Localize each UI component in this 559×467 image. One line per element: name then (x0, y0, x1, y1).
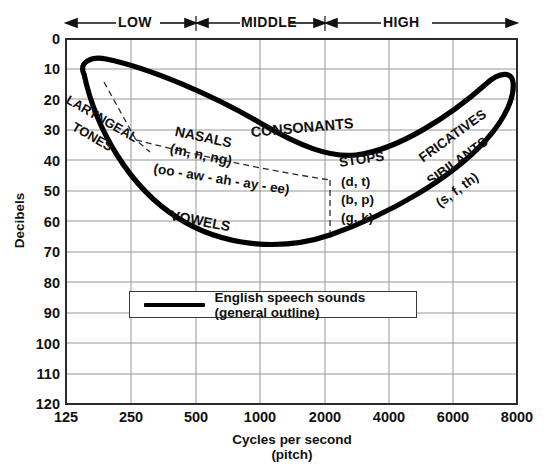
legend: English speech sounds (general outline) (129, 291, 417, 318)
ytick-90: 90 (20, 305, 60, 321)
region-stops-line4: (g, k) (341, 210, 373, 225)
x-axis-title: Cycles per second (pitch) (212, 432, 372, 462)
xtick-8000: 8000 (485, 409, 549, 425)
band-label-middle: MIDDLE (241, 14, 297, 30)
xtick-125: 125 (36, 409, 96, 425)
band-label-high: HIGH (383, 14, 420, 30)
legend-label: English speech sounds (general outline) (215, 290, 416, 320)
speech-banana-chart: LOW MIDDLE HIGH 0 10 20 30 40 50 60 70 8… (0, 0, 559, 467)
xtick-4000: 4000 (357, 409, 421, 425)
ytick-80: 80 (20, 275, 60, 291)
region-stops-line2: (d, t) (341, 174, 370, 189)
chart-canvas (0, 0, 559, 467)
xtick-6000: 6000 (421, 409, 485, 425)
xtick-2000: 2000 (293, 409, 357, 425)
speech-banana-outline (83, 58, 514, 244)
ytick-40: 40 (20, 153, 60, 169)
ytick-110: 110 (20, 366, 60, 382)
region-stops-line3: (b, p) (341, 192, 374, 207)
ytick-30: 30 (20, 122, 60, 138)
xtick-1000: 1000 (228, 409, 292, 425)
xtick-250: 250 (101, 409, 161, 425)
y-axis-title: Decibels (12, 176, 27, 266)
band-label-low: LOW (118, 14, 152, 30)
ytick-20: 20 (20, 92, 60, 108)
plot-frame (66, 39, 517, 404)
ytick-10: 10 (20, 61, 60, 77)
ytick-0: 0 (20, 31, 60, 47)
legend-line-swatch (144, 303, 205, 307)
ytick-100: 100 (20, 336, 60, 352)
xtick-500: 500 (166, 409, 226, 425)
